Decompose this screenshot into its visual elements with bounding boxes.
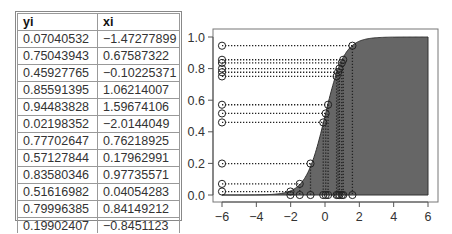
x-tick-label: 6 bbox=[425, 210, 432, 224]
table-row: 0.799963850.84149212 bbox=[18, 201, 180, 218]
table-row: 0.944838281.59674106 bbox=[18, 99, 180, 116]
y-tick-label: 0.4 bbox=[188, 125, 205, 139]
cell-xi: 1.59674106 bbox=[98, 99, 180, 116]
x-tick-label: 2 bbox=[356, 210, 363, 224]
table-header-row: yi xi bbox=[18, 14, 180, 31]
cell-xi: −2.0144049 bbox=[98, 116, 180, 133]
y-tick-label: 0.8 bbox=[188, 62, 205, 76]
table-body: 0.07040532−1.472778990.750439430.6758732… bbox=[18, 31, 180, 234]
cell-yi: 0.83580346 bbox=[18, 167, 98, 184]
column-header-xi: xi bbox=[98, 14, 180, 31]
x-tick-label: −4 bbox=[249, 210, 263, 224]
table-row: 0.777026470.76218925 bbox=[18, 133, 180, 150]
cdf-fill bbox=[222, 37, 428, 195]
cell-yi: 0.02198352 bbox=[18, 116, 98, 133]
cell-yi: 0.75043943 bbox=[18, 48, 98, 65]
cell-yi: 0.45927765 bbox=[18, 65, 98, 82]
y-tick-label: 0.2 bbox=[188, 157, 205, 171]
cell-yi: 0.94483828 bbox=[18, 99, 98, 116]
table-row: 0.571278440.17962991 bbox=[18, 150, 180, 167]
cell-xi: 0.76218925 bbox=[98, 133, 180, 150]
data-table: yi xi 0.07040532−1.472778990.750439430.6… bbox=[17, 13, 180, 233]
cell-yi: 0.79996385 bbox=[18, 201, 98, 218]
cdf-area bbox=[222, 37, 428, 195]
cell-yi: 0.57127844 bbox=[18, 150, 98, 167]
y-tick-label: 0.6 bbox=[188, 94, 205, 108]
table-row: 0.19902407−0.8451123 bbox=[18, 218, 180, 234]
cell-xi: 0.84149212 bbox=[98, 201, 180, 218]
x-tick-label: 0 bbox=[322, 210, 329, 224]
y-tick-label: 0.0 bbox=[188, 189, 205, 203]
y-tick-label: 1.0 bbox=[188, 31, 205, 45]
column-header-yi: yi bbox=[18, 14, 98, 31]
table-row: 0.835803460.97735571 bbox=[18, 167, 180, 184]
cell-yi: 0.51616982 bbox=[18, 184, 98, 201]
cell-yi: 0.77702647 bbox=[18, 133, 98, 150]
table-row: 0.516169820.04054283 bbox=[18, 184, 180, 201]
table-row: 0.07040532−1.47277899 bbox=[18, 31, 180, 48]
cell-xi: 0.67587322 bbox=[98, 48, 180, 65]
table-row: 0.855913951.06214007 bbox=[18, 82, 180, 99]
y-axis: 0.00.20.40.60.81.0 bbox=[188, 31, 213, 203]
cell-yi: 0.85591395 bbox=[18, 82, 98, 99]
cell-xi: 0.97735571 bbox=[98, 167, 180, 184]
x-tick-label: 4 bbox=[390, 210, 397, 224]
cell-yi: 0.07040532 bbox=[18, 31, 98, 48]
cell-xi: 1.06214007 bbox=[98, 82, 180, 99]
data-table-container: yi xi 0.07040532−1.472778990.750439430.6… bbox=[15, 11, 182, 221]
table-row: 0.45927765−0.10225371 bbox=[18, 65, 180, 82]
table-row: 0.750439430.67587322 bbox=[18, 48, 180, 65]
cell-xi: −0.8451123 bbox=[98, 218, 180, 234]
logistic-cdf-chart: −6−4−20246 0.00.20.40.60.81.0 bbox=[183, 0, 452, 233]
x-tick-label: −6 bbox=[215, 210, 229, 224]
cell-xi: 0.04054283 bbox=[98, 184, 180, 201]
cell-xi: 0.17962991 bbox=[98, 150, 180, 167]
table-row: 0.02198352−2.0144049 bbox=[18, 116, 180, 133]
cell-yi: 0.19902407 bbox=[18, 218, 98, 234]
cell-xi: −1.47277899 bbox=[98, 31, 180, 48]
x-tick-label: −2 bbox=[284, 210, 298, 224]
cell-xi: −0.10225371 bbox=[98, 65, 180, 82]
x-axis: −6−4−20246 bbox=[215, 202, 432, 224]
